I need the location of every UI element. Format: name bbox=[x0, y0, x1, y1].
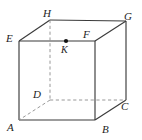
hidden-edge-group bbox=[19, 20, 126, 120]
vertex-label-F: F bbox=[83, 29, 90, 40]
marked-point-group bbox=[64, 39, 68, 43]
edge-FG bbox=[95, 21, 126, 41]
vertex-label-A: A bbox=[7, 122, 14, 133]
vertex-label-C: C bbox=[121, 101, 128, 112]
vertex-label-H: H bbox=[43, 8, 51, 19]
vertex-label-B: B bbox=[102, 124, 109, 135]
solid-edge-group bbox=[19, 20, 126, 120]
cube-figure: ABCDEFGHK bbox=[0, 0, 142, 140]
edge-EH bbox=[19, 20, 50, 41]
vertex-label-G: G bbox=[124, 11, 132, 22]
cube-diagram-svg bbox=[0, 0, 142, 140]
vertex-label-E: E bbox=[6, 33, 13, 44]
point-K-dot bbox=[64, 39, 68, 43]
point-label-K: K bbox=[61, 45, 68, 55]
hidden-edge-DA bbox=[19, 100, 50, 120]
edge-HG bbox=[50, 20, 126, 21]
vertex-label-D: D bbox=[33, 89, 41, 100]
